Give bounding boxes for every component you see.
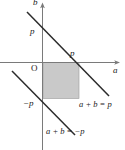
origin-label: O [31, 64, 38, 73]
b-axis-tick-label-negative-p: −p [23, 99, 34, 108]
math-figure: b p O p a −p a + b = p a + b = −p [0, 0, 125, 150]
shaded-region [43, 63, 79, 99]
a-axis-label: a [113, 66, 118, 75]
b-axis-tick-label-p: p [30, 27, 35, 36]
line-label-a-plus-b-equals-negative-p: a + b = −p [46, 127, 84, 136]
line-label-a-plus-b-equals-p: a + b = p [79, 100, 112, 109]
b-axis-label: b [33, 0, 38, 7]
a-axis-tick-label-p: p [70, 49, 75, 58]
